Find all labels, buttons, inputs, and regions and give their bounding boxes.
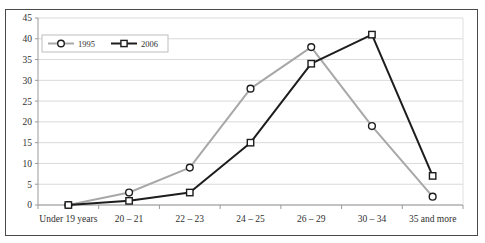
y-tick-label: 5: [27, 180, 32, 190]
y-tick-label: 0: [27, 200, 32, 210]
y-tick-label: 20: [23, 117, 33, 127]
x-axis-category-labels-group: Under 19 years20 – 2122 – 2324 – 2526 – …: [39, 214, 456, 224]
y-tick-label: 15: [23, 138, 33, 148]
line-chart: 051015202530354045 Under 19 years20 – 21…: [0, 0, 485, 243]
data-point-marker: [308, 44, 315, 51]
y-tick-label: 40: [23, 34, 33, 44]
legend-entry-label: 2006: [141, 39, 158, 49]
data-point-marker: [187, 189, 193, 195]
x-axis-category-label: 35 and more: [409, 214, 457, 224]
y-tick-labels-group: 051015202530354045: [23, 13, 39, 210]
data-point-marker: [65, 202, 71, 208]
y-tick-label: 25: [23, 97, 33, 107]
y-tick-label: 30: [23, 76, 33, 86]
legend-entry-label: 1995: [78, 39, 95, 49]
x-tick-marks-group: [38, 205, 463, 209]
x-axis-category-label: 26 – 29: [297, 214, 326, 224]
chart-legend: 19952006: [42, 35, 168, 52]
data-point-marker: [247, 85, 254, 92]
chart-figure: 051015202530354045 Under 19 years20 – 21…: [0, 0, 485, 243]
x-axis-category-label: 24 – 25: [236, 214, 265, 224]
chart-canvas: 051015202530354045 Under 19 years20 – 21…: [0, 0, 485, 243]
data-point-marker: [429, 193, 436, 200]
data-point-marker: [126, 198, 132, 204]
data-point-marker: [126, 189, 133, 196]
data-point-marker: [247, 139, 253, 145]
legend-marker-sample: [121, 40, 127, 46]
data-point-marker: [186, 164, 193, 171]
y-tick-label: 45: [23, 13, 33, 23]
x-axis-category-label: 20 – 21: [115, 214, 144, 224]
data-point-marker: [369, 123, 376, 130]
data-point-marker: [429, 173, 435, 179]
data-point-marker: [308, 61, 314, 67]
x-axis-category-label: 22 – 23: [176, 214, 205, 224]
x-axis-category-label: Under 19 years: [39, 214, 97, 224]
y-tick-label: 10: [23, 159, 33, 169]
y-tick-label: 35: [23, 55, 33, 65]
x-axis-category-label: 30 – 34: [358, 214, 387, 224]
data-point-marker: [369, 31, 375, 37]
legend-marker-sample: [58, 40, 65, 47]
